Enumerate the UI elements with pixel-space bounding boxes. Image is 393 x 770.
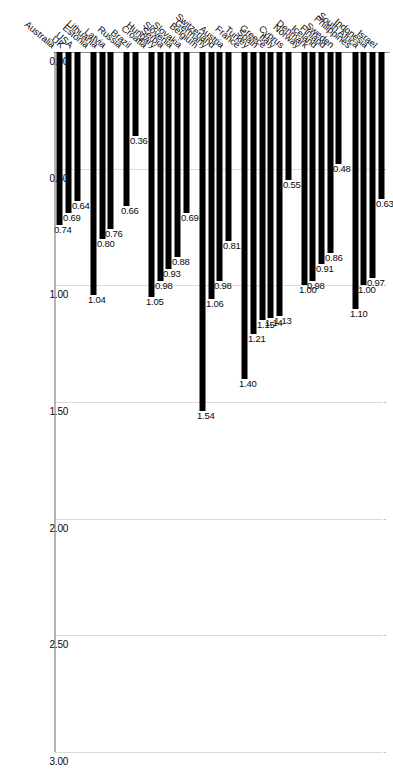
value-label-belgium: 1.54 — [196, 410, 214, 421]
bar-australia[interactable] — [56, 52, 62, 225]
chart-canvas: 0.63Israel0.97Indonesia1.00South Africa1… — [0, 0, 393, 770]
value-label-slovenia: 0.88 — [172, 256, 190, 267]
bar-philippines[interactable] — [352, 52, 358, 309]
bar-austria[interactable] — [225, 52, 231, 241]
value-label-estonia: 1.04 — [87, 293, 105, 304]
tick-label-3.00: 3.00 — [49, 756, 68, 767]
bar-belgium[interactable] — [199, 52, 205, 411]
value-label-brazil: 0.36 — [130, 135, 148, 146]
category-label-australia: Australia — [23, 19, 58, 51]
tick-label-2.00: 2.00 — [49, 523, 68, 534]
tick-label-1.50: 1.50 — [49, 406, 68, 417]
bar-greece[interactable] — [267, 52, 273, 318]
value-label-turkey: 1.21 — [247, 333, 265, 344]
gridline-3.00 — [55, 752, 385, 753]
bar-germany[interactable] — [208, 52, 214, 299]
value-label-austria: 0.81 — [223, 240, 241, 251]
bar-russia[interactable] — [123, 52, 129, 206]
bar-spain[interactable] — [259, 52, 265, 320]
value-label-south-africa: 1.00 — [358, 284, 376, 295]
bar-brazil[interactable] — [132, 52, 138, 136]
bar-sweden[interactable] — [335, 52, 341, 164]
tick-label-0.00: 0.00 — [49, 56, 68, 67]
value-label-finland: 0.86 — [324, 251, 342, 262]
value-label-slovakia: 0.69 — [180, 212, 198, 223]
bar-usa[interactable] — [74, 52, 80, 201]
value-label-spain: 1.15 — [256, 319, 274, 330]
bar-denmark[interactable] — [309, 52, 315, 281]
bar-south-africa[interactable] — [360, 52, 366, 285]
value-label-germany: 1.06 — [205, 298, 223, 309]
tick-label-2.50: 2.50 — [49, 639, 68, 650]
bar-switzerland[interactable] — [216, 52, 222, 281]
bar-norway[interactable] — [301, 52, 307, 285]
gridline-2.00 — [55, 519, 385, 520]
plot-area: 0.63Israel0.97Indonesia1.00South Africa1… — [55, 52, 385, 752]
bar-iceland[interactable] — [318, 52, 324, 264]
value-label-norway: 1.00 — [298, 284, 316, 295]
bar-turkey[interactable] — [250, 52, 256, 334]
value-label-iceland: 0.91 — [316, 263, 334, 274]
bar-estonia[interactable] — [90, 52, 96, 295]
value-label-lithuania: 0.80 — [96, 237, 114, 248]
value-label-switzerland: 0.98 — [214, 279, 232, 290]
bar-serbia[interactable] — [165, 52, 171, 269]
value-label-russia: 0.66 — [121, 205, 139, 216]
bar-israel[interactable] — [378, 52, 384, 199]
value-label-hungary: 0.98 — [154, 279, 172, 290]
value-label-philippines: 1.10 — [349, 307, 367, 318]
bar-cyprus[interactable] — [285, 52, 291, 180]
bar-italy[interactable] — [276, 52, 282, 316]
bar-slovenia[interactable] — [174, 52, 180, 257]
bar-latvia[interactable] — [107, 52, 113, 229]
bar-indonesia[interactable] — [369, 52, 375, 278]
tick-label-0.50: 0.50 — [49, 173, 68, 184]
bar-hungary[interactable] — [157, 52, 163, 281]
value-label-serbia: 0.93 — [163, 268, 181, 279]
bar-croatia[interactable] — [148, 52, 154, 297]
bar-france[interactable] — [241, 52, 247, 379]
bar-chart-figure: 0.63Israel0.97Indonesia1.00South Africa1… — [0, 0, 393, 770]
tick-label-1.00: 1.00 — [49, 289, 68, 300]
value-label-sweden: 0.48 — [333, 163, 351, 174]
value-label-israel: 0.63 — [375, 198, 393, 209]
bar-lithuania[interactable] — [99, 52, 105, 239]
bar-slovakia[interactable] — [183, 52, 189, 213]
bar-finland[interactable] — [327, 52, 333, 253]
value-label-croatia: 1.05 — [146, 296, 164, 307]
value-label-usa: 0.64 — [71, 200, 89, 211]
value-label-australia: 0.74 — [54, 223, 72, 234]
value-label-france: 1.40 — [239, 377, 257, 388]
value-label-cyprus: 0.55 — [282, 179, 300, 190]
value-label-uk: 0.69 — [63, 212, 81, 223]
gridline-2.50 — [55, 635, 385, 636]
bar-uk[interactable] — [65, 52, 71, 213]
gridline-1.50 — [55, 402, 385, 403]
